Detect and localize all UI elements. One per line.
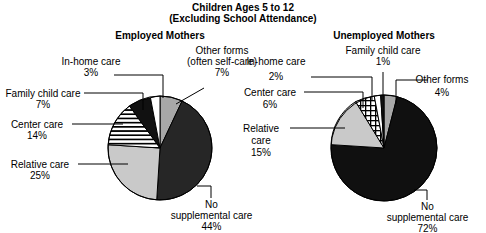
label-no-supplemental-care-name2: supplemental care: [375, 212, 480, 223]
label-other-forms-name: Other forms: [166, 45, 278, 56]
label-in-home-care-name: In-home care: [48, 56, 134, 67]
label-relative-care-name2: care: [232, 135, 290, 146]
page-title-line2: (Excluding School Attendance): [123, 13, 363, 24]
label-relative-care-value: 25%: [2, 170, 78, 181]
label-no-supplemental-care-name2: supplemental care: [159, 210, 264, 221]
label-no-supplemental-care-name: No: [375, 201, 480, 212]
label-no-supplemental-care-name: No: [159, 199, 264, 210]
label-relative-care-name: Relative: [232, 123, 290, 134]
leader-in-home-care: [114, 75, 163, 98]
label-family-child-care-value: 7%: [2, 99, 84, 110]
leader-other-forms: [176, 88, 204, 104]
label-in-home-care-name: In-home care: [240, 56, 312, 67]
slice-relative-care[interactable]: [108, 145, 160, 200]
label-family-child-care-value: 1%: [330, 56, 436, 67]
chart-title-employed: Employed Mothers: [80, 30, 240, 41]
label-center-care-name: Center care: [2, 119, 72, 130]
label-center-care-value: 14%: [2, 130, 72, 141]
label-center-care-value: 6%: [236, 99, 304, 110]
label-family-child-care-name: Family child care: [330, 45, 436, 56]
label-no-supplemental-care-value: 72%: [375, 223, 480, 233]
label-relative-care-value: 15%: [232, 147, 290, 158]
chart-canvas: Children Ages 5 to 12 (Excluding School …: [0, 0, 486, 233]
page-title-line1: Children Ages 5 to 12: [123, 2, 363, 13]
label-other-forms-name: Other forms: [398, 74, 486, 85]
label-no-supplemental-care-value: 44%: [159, 221, 264, 232]
leader-no-supplemental-care: [197, 186, 211, 198]
pie-employed-mothers: [108, 96, 212, 200]
label-family-child-care-name: Family child care: [2, 88, 84, 99]
leader-no-supplemental-care: [414, 190, 427, 200]
pie-unemployed-mothers: [331, 95, 437, 201]
label-relative-care-name: Relative care: [2, 159, 78, 170]
label-in-home-care-value: 3%: [48, 67, 134, 78]
chart-title-unemployed: Unemployed Mothers: [304, 30, 464, 41]
label-center-care-name: Center care: [236, 87, 304, 98]
label-in-home-care-value: 2%: [240, 71, 312, 82]
label-other-forms-value: 4%: [398, 87, 486, 98]
